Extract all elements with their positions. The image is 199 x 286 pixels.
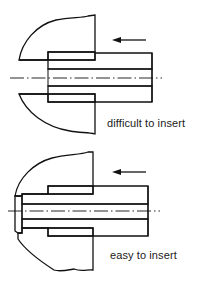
figure-difficult-to-insert: difficult to insert [0, 0, 199, 143]
pin-inner-bore [48, 69, 152, 86]
pin-inner-bore [22, 204, 148, 219]
insertion-arrow-icon [112, 169, 146, 175]
caption-difficult: difficult to insert [107, 117, 185, 129]
caption-easy: easy to insert [110, 249, 177, 261]
housing-lower [19, 94, 95, 134]
clearance-gap-upper [48, 52, 95, 60]
pin-wall-lower [48, 86, 152, 102]
housing-lower [18, 228, 93, 271]
housing-upper [15, 152, 93, 196]
pin-wall-upper [22, 186, 148, 204]
pin-wall-lower [22, 219, 148, 236]
housing-upper [19, 15, 95, 60]
pin-wall-upper [48, 53, 152, 69]
figure-easy-to-insert: easy to insert [0, 143, 199, 286]
insertion-arrow-icon [112, 37, 146, 43]
clearance-gap-upper [48, 186, 93, 194]
clearance-gap-lower [48, 228, 93, 236]
bore-opening [19, 60, 48, 94]
diagram-pin-housing-easy [0, 143, 199, 286]
pilot-groove [15, 196, 22, 233]
clearance-gap-lower [48, 94, 95, 102]
